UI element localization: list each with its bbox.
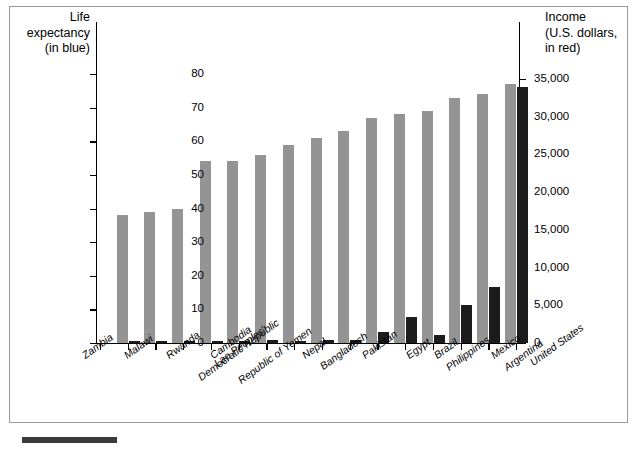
x-axis-tick xyxy=(128,344,129,350)
income-bar xyxy=(212,341,223,343)
income-bar xyxy=(406,317,417,343)
x-axis-tick xyxy=(211,344,212,350)
income-bar xyxy=(129,341,140,343)
left-axis-title: Life expectancy (in blue) xyxy=(10,10,90,57)
left-axis-tick-label: 30 xyxy=(191,236,204,248)
x-axis-tick xyxy=(461,344,462,350)
x-axis-tick xyxy=(266,344,267,350)
right-axis-tick-label: 30,000 xyxy=(534,111,569,123)
left-axis-tick xyxy=(90,175,96,176)
left-axis-tick xyxy=(90,309,96,310)
x-axis-tick xyxy=(322,344,323,350)
income-bar xyxy=(267,340,278,343)
income-bar xyxy=(156,341,167,343)
income-bar xyxy=(517,87,528,343)
right-axis-tick-label: 15,000 xyxy=(534,224,569,236)
left-axis-tick xyxy=(90,242,96,243)
x-axis-tick xyxy=(100,344,101,350)
left-axis-tick-label: 40 xyxy=(191,203,204,215)
right-axis-tick xyxy=(520,343,526,344)
x-axis-tick xyxy=(183,344,184,350)
x-axis-tick xyxy=(377,344,378,350)
life-expectancy-bar xyxy=(422,111,433,343)
right-axis-tick-label: 25,000 xyxy=(534,148,569,160)
plot-area xyxy=(96,22,520,344)
life-expectancy-bar xyxy=(477,94,488,343)
income-bar xyxy=(489,287,500,343)
bottom-rule xyxy=(22,437,117,443)
chart-figure: Life expectancy (in blue) Income (U.S. d… xyxy=(0,0,638,452)
life-expectancy-bar xyxy=(144,212,155,343)
life-expectancy-bar xyxy=(394,114,405,343)
x-axis-tick xyxy=(239,344,240,350)
bottom-axis-line xyxy=(96,343,520,344)
income-bar xyxy=(434,335,445,343)
left-axis-tick-label: 70 xyxy=(191,102,204,114)
x-axis-tick xyxy=(433,344,434,350)
right-axis-tick xyxy=(520,79,526,80)
right-axis-tick-label: 20,000 xyxy=(534,186,569,198)
x-axis-tick xyxy=(488,344,489,350)
right-axis-title: Income (U.S. dollars, in red) xyxy=(545,10,635,57)
left-axis-tick-label: 50 xyxy=(191,169,204,181)
x-axis-tick xyxy=(155,344,156,350)
life-expectancy-bar xyxy=(283,145,294,343)
x-axis-tick xyxy=(350,344,351,350)
life-expectancy-bar xyxy=(117,215,128,343)
life-expectancy-bar xyxy=(449,98,460,343)
income-bar xyxy=(184,341,195,343)
life-expectancy-bar xyxy=(338,131,349,343)
left-axis-tick xyxy=(90,141,96,142)
left-axis-line xyxy=(96,22,97,344)
left-axis-tick-label: 80 xyxy=(191,68,204,80)
left-axis-tick xyxy=(90,343,96,344)
left-axis-tick xyxy=(90,276,96,277)
life-expectancy-bar xyxy=(505,84,516,343)
life-expectancy-bar xyxy=(172,209,183,344)
right-axis-tick-label: 35,000 xyxy=(534,73,569,85)
income-bar xyxy=(378,332,389,343)
life-expectancy-bar xyxy=(311,138,322,343)
left-axis-tick-label: 0 xyxy=(198,337,204,349)
income-bar xyxy=(350,340,361,343)
x-axis-tick xyxy=(405,344,406,350)
life-expectancy-bar xyxy=(366,118,377,343)
left-axis-tick xyxy=(90,209,96,210)
right-axis-tick-label: 0 xyxy=(534,337,540,349)
income-bar xyxy=(295,341,306,343)
left-axis-tick-label: 60 xyxy=(191,135,204,147)
x-axis-tick xyxy=(516,344,517,350)
income-bar xyxy=(239,341,250,343)
life-expectancy-bar xyxy=(200,161,211,343)
income-bar xyxy=(461,305,472,343)
x-axis-tick xyxy=(294,344,295,350)
right-axis-tick-label: 5,000 xyxy=(534,299,563,311)
right-axis-tick-label: 10,000 xyxy=(534,262,569,274)
left-axis-tick xyxy=(90,74,96,75)
income-bar xyxy=(323,340,334,343)
left-axis-tick-label: 10 xyxy=(191,303,204,315)
life-expectancy-bar xyxy=(255,155,266,343)
left-axis-tick xyxy=(90,108,96,109)
left-axis-tick-label: 20 xyxy=(191,270,204,282)
life-expectancy-bar xyxy=(227,161,238,343)
